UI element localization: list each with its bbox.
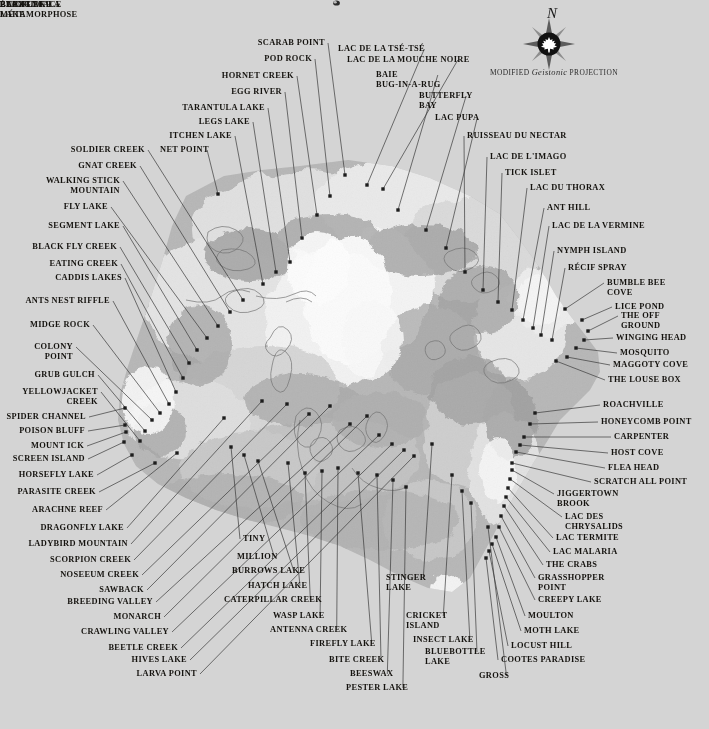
leader-line-antenna-creek <box>337 468 338 630</box>
leader-dot-grasshopper-point <box>499 514 502 517</box>
leader-line-arachne-reef <box>106 453 177 510</box>
leader-dot-dragonfly-lake <box>222 416 225 419</box>
map-label-tiny: TINY <box>243 534 265 544</box>
leader-dot-winging-head <box>582 338 585 341</box>
leader-dot-creepy-lake <box>497 525 500 528</box>
leader-dot-black-fly-creek <box>187 361 190 364</box>
map-label-lac-pupa: LAC PUPA <box>435 113 479 123</box>
map-label-arachne-reef: ARACHNE REEF <box>32 505 103 515</box>
leader-dot-yellowjacket <box>138 439 141 442</box>
leader-dot-fly-lake <box>205 336 208 339</box>
leader-dot-bumble-bee-cove <box>563 307 566 310</box>
leader-line-roachville <box>535 405 600 413</box>
map-label-jiggertown-brook: JIGGERTOWN BROOK <box>557 489 619 508</box>
map-label-stinger-lake: STINGER LAKE <box>386 573 426 592</box>
leader-dot-host-cove <box>518 443 521 446</box>
map-label-flea-head: FLEA HEAD <box>608 463 659 473</box>
leader-dot-caterpillar-creek <box>303 471 306 474</box>
leader-dot-flea-head <box>514 450 517 453</box>
leader-dot-itchen-lake <box>261 282 264 285</box>
map-label-nymph-island: NYMPH ISLAND <box>557 246 627 256</box>
leader-line-dragonfly-lake <box>127 418 224 528</box>
map-label-insect-lake: INSECT LAKE <box>413 635 474 645</box>
leader-dot-segment-lake <box>195 348 198 351</box>
map-label-parasite-creek: PARASITE CREEK <box>17 487 96 497</box>
leader-line-bluebottle-lake <box>471 503 477 652</box>
leader-dot-breeding-valley <box>348 422 351 425</box>
map-label-egg-river: EGG RIVER <box>231 87 282 97</box>
map-label-bite-creek: BITE CREEK <box>329 655 384 665</box>
map-label-hatch-lake: HATCH LAKE <box>248 581 307 591</box>
leader-line-lice-pond <box>582 307 612 320</box>
leader-line-lac-malaria <box>506 497 550 552</box>
map-label-pester-lake: PESTER LAKE <box>346 683 408 693</box>
leader-dot-the-crabs <box>502 504 505 507</box>
leader-dot-lac-de-la-vermine <box>531 326 534 329</box>
leader-line-honeycomb-point <box>530 422 598 424</box>
leader-line-lac-imago <box>483 157 487 290</box>
map-label-butterfly-bay: BUTTERFLY BAY <box>419 91 473 110</box>
leader-line-net-point <box>207 150 218 194</box>
map-label-caterpillar-creek: CATERPILLAR CREEK <box>224 595 322 605</box>
leader-line-cootes-paradise <box>486 558 498 660</box>
map-label-scorpion-creek: SCORPION CREEK <box>50 555 131 565</box>
leader-dot-locust-hill <box>487 549 490 552</box>
map-label-lac-tsetse: LAC DE LA TSÉ-TSÉ <box>338 44 425 54</box>
map-label-caddis-lakes: CADDIS LAKES <box>55 273 122 283</box>
map-canvas: SCARAB POINTPOD ROCKHORNET CREEKEGG RIVE… <box>0 0 709 729</box>
map-label-million: MILLION <box>237 552 278 562</box>
leader-line-caddis-lakes <box>125 278 176 392</box>
map-label-gross: GROSS <box>479 671 509 681</box>
map-label-lac-imago: LAC DE L'IMAGO <box>490 152 567 162</box>
leader-line-recif-spray <box>552 268 565 340</box>
map-label-etang-metamorphose: ÉTANG DE LA MÉTAMORPHOSE <box>0 0 78 19</box>
leader-line-tarantula-lake <box>268 108 290 262</box>
map-label-segment-lake: SEGMENT LAKE <box>48 221 120 231</box>
leader-line-host-cove <box>520 445 608 453</box>
map-label-cootes-paradise: COOTES PARADISE <box>501 655 585 665</box>
leader-dot-poison-bluff <box>123 423 126 426</box>
leader-dot-parasite-creek <box>153 461 156 464</box>
map-label-horsefly-lake: HORSEFLY LAKE <box>19 470 94 480</box>
leader-dot-pester-lake <box>404 485 407 488</box>
map-label-moth-lake: MOTH LAKE <box>524 626 580 636</box>
map-label-ant-hill: ANT HILL <box>547 203 590 213</box>
leader-dot-scarab-point <box>343 173 346 176</box>
map-label-bluebottle-lake: BLUEBOTTLE LAKE <box>425 647 486 666</box>
map-label-lac-des-chrysalids: LAC DES CHRYSALIDS <box>565 512 623 531</box>
leader-dot-moulton <box>494 535 497 538</box>
leader-dot-antenna-creek <box>336 466 339 469</box>
leader-dot-lac-des-chrysalids <box>508 477 511 480</box>
leader-dot-butterfly-bay <box>424 228 427 231</box>
leader-line-grasshopper-point <box>501 516 535 578</box>
leader-line-hornet-creek <box>297 76 317 215</box>
leader-dot-hatch-lake <box>286 461 289 464</box>
map-label-soldier-creek: SOLDIER CREEK <box>71 145 145 155</box>
leader-dot-caddis-lakes <box>174 390 177 393</box>
map-label-dragonfly-lake: DRAGONFLY LAKE <box>40 523 124 533</box>
map-label-mount-ick: MOUNT ICK <box>31 441 84 451</box>
map-label-mosquito: MOSQUITO <box>620 348 670 358</box>
map-label-walking-stick: WALKING STICK MOUNTAIN <box>46 176 120 195</box>
map-label-poison-bluff: POISON BLUFF <box>19 426 85 436</box>
leader-dot-lac-tsetse <box>365 183 368 186</box>
leader-line-ruisseau-nectar <box>464 136 465 272</box>
map-label-beeswax: BEESWAX <box>350 669 393 679</box>
map-label-the-louse-box: THE LOUSE BOX <box>608 375 681 385</box>
projection-name: Geistonic <box>532 68 568 77</box>
map-label-legs-lake: LEGS LAKE <box>199 117 250 127</box>
leader-line-walking-stick <box>123 181 218 326</box>
map-label-crawling-valley: CRAWLING VALLEY <box>81 627 169 637</box>
leader-line-stinger-lake <box>423 444 432 578</box>
map-label-lac-malaria: LAC MALARIA <box>553 547 618 557</box>
compass-rose: N <box>518 8 580 70</box>
map-label-grub-gulch: GRUB GULCH <box>34 370 95 380</box>
map-label-beetle-creek: BEETLE CREEK <box>108 643 178 653</box>
map-label-maggoty-cove: MAGGOTY COVE <box>613 360 688 370</box>
leader-dot-grub-gulch <box>143 429 146 432</box>
top-mark-icon <box>332 0 341 7</box>
leader-dot-walking-stick <box>216 324 219 327</box>
leader-line-screen-island <box>88 442 124 459</box>
map-label-lac-du-thorax: LAC DU THORAX <box>530 183 605 193</box>
leader-dot-legs-lake <box>274 270 277 273</box>
